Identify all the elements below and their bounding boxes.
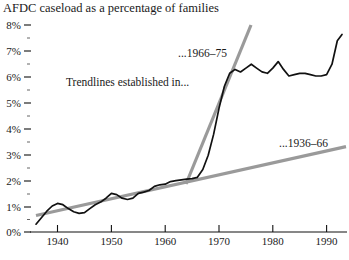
x-tick-1990: 1990 (316, 225, 339, 247)
x-tick-label-1990: 1990 (316, 235, 339, 247)
x-tick-label-1950: 1950 (100, 235, 123, 247)
x-tick-1940: 1940 (47, 225, 70, 247)
y-tick-label-8: 8% (6, 19, 21, 31)
trendline-1936-66 (36, 147, 346, 216)
x-axis-group: 1940 1950 1960 1970 1980 1990 (47, 225, 339, 247)
x-tick-label-1970: 1970 (208, 235, 231, 247)
y-tick-7: 7% (6, 45, 31, 57)
chart-plot-area: 0% 1% 2% 3% 4% 5% (0, 0, 349, 260)
y-tick-6: 6% (6, 71, 31, 83)
x-tick-1970: 1970 (208, 225, 231, 247)
x-tick-1980: 1980 (262, 225, 285, 247)
y-tick-label-6: 6% (6, 71, 21, 83)
y-tick-5: 5% (6, 97, 31, 109)
y-tick-label-5: 5% (6, 97, 21, 109)
x-tick-label-1960: 1960 (154, 235, 177, 247)
y-tick-label-4: 4% (6, 123, 21, 135)
data-line-afdc-caseload (36, 35, 342, 225)
y-tick-4: 4% (6, 123, 31, 135)
y-tick-label-1: 1% (6, 201, 21, 213)
y-tick-0: 0% (6, 226, 31, 238)
y-axis-group: 0% 1% 2% 3% 4% 5% (6, 19, 31, 238)
y-tick-3: 3% (6, 149, 31, 161)
chart-page: AFDC caseload as a percentage of familie… (0, 0, 349, 260)
x-tick-1950: 1950 (100, 225, 123, 247)
annotation-trendline-1966-75: ...1966–75 (178, 47, 227, 59)
annotation-trendlines-established: Trendlines established in... (66, 76, 189, 88)
x-tick-1960: 1960 (154, 225, 177, 247)
y-tick-1: 1% (6, 201, 31, 213)
y-tick-label-0: 0% (6, 226, 21, 238)
y-tick-label-2: 2% (6, 175, 21, 187)
y-tick-label-7: 7% (6, 45, 21, 57)
x-tick-label-1980: 1980 (262, 235, 285, 247)
y-tick-label-3: 3% (6, 149, 21, 161)
y-tick-2: 2% (6, 175, 31, 187)
x-tick-label-1940: 1940 (47, 235, 70, 247)
annotation-trendline-1936-66: ...1936–66 (279, 137, 328, 149)
y-tick-8: 8% (6, 19, 31, 31)
